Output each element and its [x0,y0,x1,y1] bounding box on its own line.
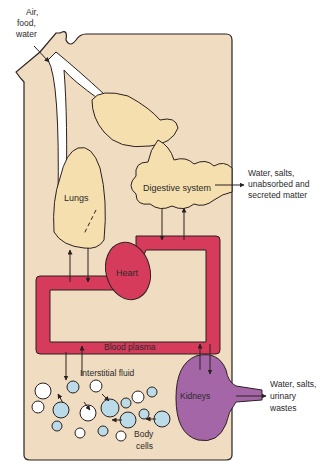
svg-text:unabsorbed and: unabsorbed and [248,179,310,189]
heart-label: Heart [116,268,139,278]
interstitial-fluid-label: Interstitial fluid [80,368,135,378]
kidney-output-label: Water, salts, urinary wastes [269,379,316,413]
body-fluid-diagram: Lungs Digestive system Water, salts, una… [0,0,333,466]
blood-plasma-label: Blood plasma [104,342,156,352]
svg-text:wastes: wastes [269,403,296,413]
digestive-output-label: Water, salts, unabsorbed and secreted ma… [248,168,310,200]
svg-text:Water, salts,: Water, salts, [270,379,316,389]
lungs-label: Lungs [64,193,89,203]
digestive-label: Digestive system [143,183,211,193]
svg-text:water: water [15,29,37,39]
svg-text:Water, salts,: Water, salts, [248,168,294,178]
svg-text:food,: food, [17,18,36,28]
svg-text:secreted matter: secreted matter [248,190,307,200]
svg-text:Body: Body [134,429,154,439]
svg-text:urinary: urinary [270,391,297,401]
intake-label: Air, food, water [15,7,38,39]
kidneys-label: Kidneys [180,391,210,401]
svg-text:Air,: Air, [26,7,38,17]
svg-text:cells: cells [136,441,153,451]
